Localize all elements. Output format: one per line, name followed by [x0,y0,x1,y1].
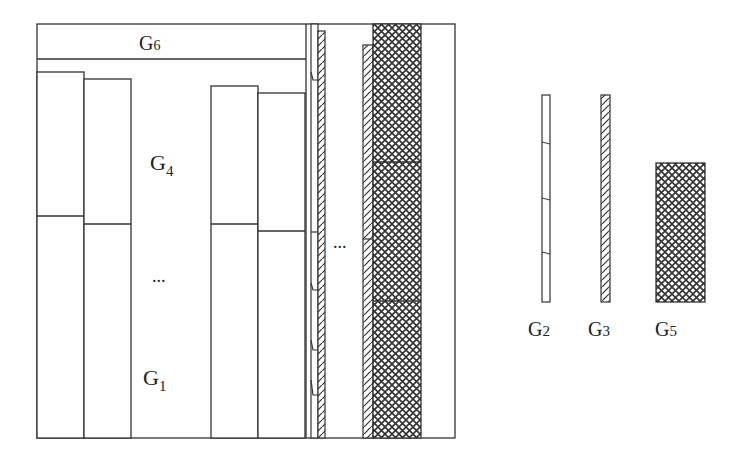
bar-2 [84,79,131,438]
g5-column-container [373,24,421,438]
packing-diagram: G6 G4 ... G1 ... [0,0,737,465]
bar-4 [258,93,305,438]
legend-g5-label: G5 [655,318,677,340]
bar-1 [37,72,84,438]
legend-g3: G3 [588,95,610,340]
legend-g5: G5 [655,163,705,340]
g6-label: G6 [139,32,160,54]
g1-label: G1 [143,365,166,394]
legend-g2-label: G2 [528,318,550,340]
legend-g3-label: G3 [588,318,610,340]
ellipsis-left: ... [152,266,166,286]
g3-strip-container-1 [318,31,325,438]
g4-label: G4 [150,150,174,179]
legend-g2: G2 [528,95,550,340]
bar-3 [211,86,258,438]
g2-strip-container [311,24,318,438]
ellipsis-right: ... [333,232,347,252]
legend: G2 G3 G5 [528,95,705,340]
bar-group-left [37,72,305,438]
g3-strip-container-2 [363,45,373,438]
